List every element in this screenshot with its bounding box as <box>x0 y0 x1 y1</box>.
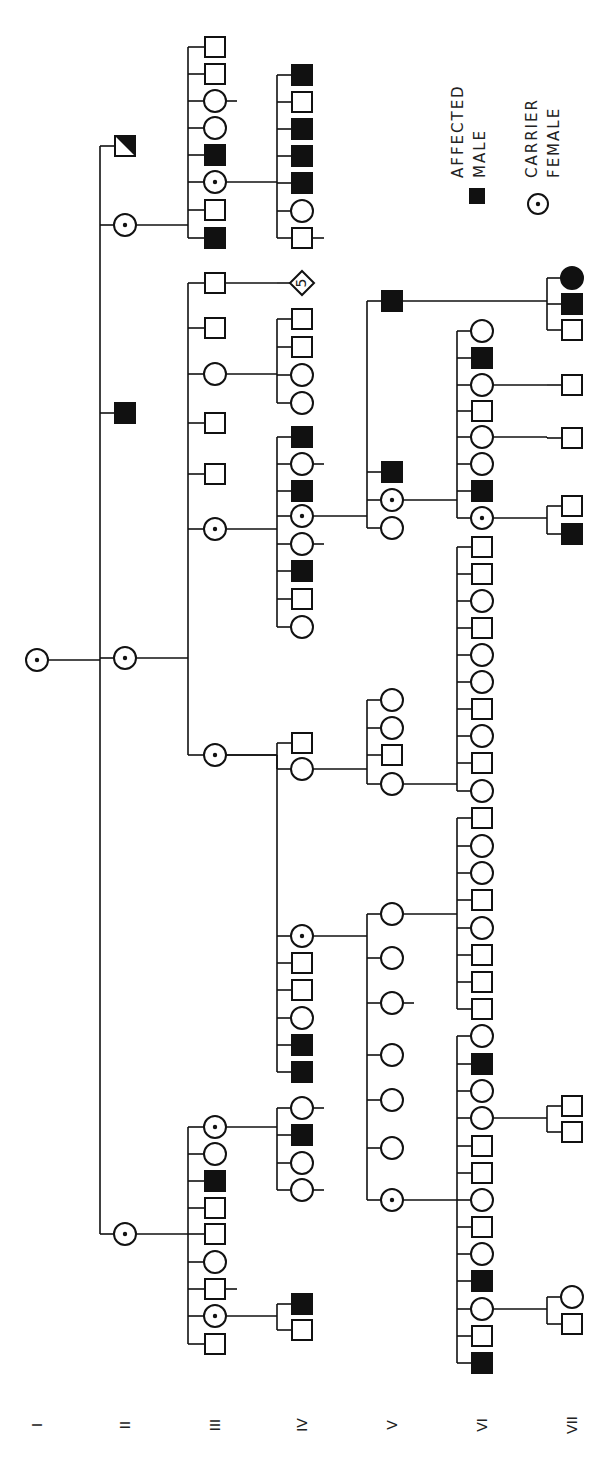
individual-female <box>471 671 493 693</box>
individual-male <box>472 945 492 965</box>
individual-female <box>381 947 403 969</box>
individual-female <box>471 320 493 342</box>
individual-male <box>472 1136 492 1156</box>
individual-diamond: 5 <box>290 271 314 295</box>
individual-affected <box>472 481 492 501</box>
carrier-female-legend-icon <box>528 194 548 214</box>
legend-carrier-line2: FEMALE <box>545 107 563 178</box>
individual-affected <box>562 294 582 314</box>
individual-female <box>471 374 493 396</box>
individual-male <box>292 337 312 357</box>
individual-male <box>205 273 225 293</box>
individual-female <box>291 1179 313 1201</box>
individual-female <box>381 689 403 711</box>
individual-male <box>205 1224 225 1244</box>
individual-female <box>204 90 226 112</box>
individual-male <box>472 1326 492 1346</box>
individual-affected <box>562 524 582 544</box>
individual-affected <box>382 291 402 311</box>
legend-affected-line2: MALE <box>471 129 489 178</box>
generation-label: VI <box>474 1418 490 1432</box>
individual-male <box>472 999 492 1019</box>
individual-carrier <box>291 925 313 947</box>
individual-male <box>205 413 225 433</box>
individual-female <box>471 1189 493 1211</box>
individual-female <box>291 1152 313 1174</box>
individual-female <box>471 780 493 802</box>
individual-female <box>291 533 313 555</box>
individual-female <box>471 1025 493 1047</box>
individual-affected <box>115 403 135 423</box>
individual-female <box>471 917 493 939</box>
individual-carrier <box>204 518 226 540</box>
generation-label: I <box>29 1423 45 1427</box>
individual-male <box>292 1320 312 1340</box>
individual-male <box>382 745 402 765</box>
individual-carrier <box>381 1189 403 1211</box>
individual-carrier <box>114 1223 136 1245</box>
individual-affected <box>292 427 312 447</box>
individual-male <box>472 890 492 910</box>
pedigree-chart: 5 AFFECTED MALE CARRIER FEMALE IIIIIIIVV… <box>0 0 601 1459</box>
individual-male <box>205 464 225 484</box>
individual-female <box>381 1137 403 1159</box>
legend-affected-line1: AFFECTED <box>449 84 467 178</box>
individual-carrier <box>204 1305 226 1327</box>
generation-label: II <box>117 1421 133 1429</box>
individual-male <box>205 200 225 220</box>
individual-affected <box>382 462 402 482</box>
individual-male <box>562 375 582 395</box>
individual-affected <box>292 561 312 581</box>
individual-carrier <box>204 744 226 766</box>
individual-affected <box>205 1171 225 1191</box>
individual-male <box>205 64 225 84</box>
individual-male <box>472 618 492 638</box>
individual-female <box>381 1044 403 1066</box>
individual-male <box>472 753 492 773</box>
individual-male <box>205 318 225 338</box>
individual-affected <box>205 145 225 165</box>
individual-male <box>472 972 492 992</box>
generation-label: V <box>384 1420 400 1430</box>
individual-female <box>291 1097 313 1119</box>
individual-female <box>381 717 403 739</box>
individual-affected <box>205 228 225 248</box>
individual-male <box>292 953 312 973</box>
individual-male <box>292 589 312 609</box>
individual-carrier <box>114 647 136 669</box>
individual-female <box>291 758 313 780</box>
individual-female <box>471 590 493 612</box>
individual-affected <box>292 481 312 501</box>
individual-affected <box>292 1062 312 1082</box>
pedigree-nodes: 5 <box>26 37 583 1373</box>
individual-carrier <box>204 1116 226 1138</box>
individual-female <box>381 903 403 925</box>
generation-label: VII <box>564 1416 580 1434</box>
individual-female <box>471 426 493 448</box>
individual-female <box>381 517 403 539</box>
individual-female <box>471 725 493 747</box>
individual-male <box>562 320 582 340</box>
individual-carrier <box>291 505 313 527</box>
individual-female <box>291 616 313 638</box>
individual-male <box>472 699 492 719</box>
individual-female <box>471 1298 493 1320</box>
individual-female <box>204 1143 226 1165</box>
individual-affected <box>292 1035 312 1055</box>
individual-female <box>471 835 493 857</box>
individual-female <box>291 453 313 475</box>
individual-male <box>472 401 492 421</box>
individual-female <box>204 363 226 385</box>
generation-label: III <box>207 1419 223 1431</box>
individual-affected <box>292 65 312 85</box>
individual-male <box>205 1334 225 1354</box>
individual-female <box>471 453 493 475</box>
individual-affected <box>292 173 312 193</box>
individual-male <box>292 92 312 112</box>
individual-affected <box>472 1271 492 1291</box>
individual-female <box>291 364 313 386</box>
legend-carrier-line1: CARRIER <box>523 98 541 178</box>
individual-male <box>472 564 492 584</box>
individual-female <box>471 1243 493 1265</box>
individual-female <box>471 862 493 884</box>
